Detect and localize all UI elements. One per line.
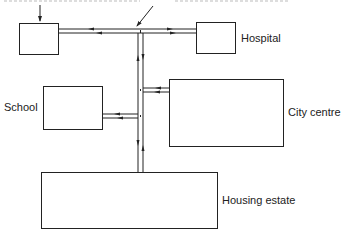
city-centre-label: City centre: [288, 106, 341, 118]
hospital-box: [196, 22, 236, 54]
school-box: [43, 86, 103, 130]
city-centre-box: [169, 79, 284, 147]
school-label: School: [4, 101, 38, 113]
housing-estate-label: Housing estate: [222, 194, 295, 206]
housing-estate-box: [41, 172, 218, 229]
unlabeled-box: [19, 23, 59, 55]
hospital-label: Hospital: [241, 32, 281, 44]
